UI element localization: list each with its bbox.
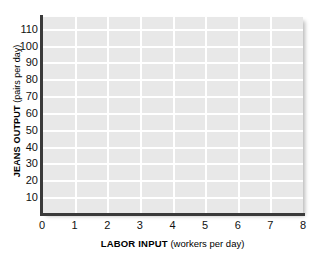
x-axis-tick-label: 8 bbox=[293, 219, 313, 231]
x-axis-tick-label: 7 bbox=[260, 219, 280, 231]
gridline-vertical bbox=[270, 17, 272, 214]
chart-figure: 102030405060708090100110 012345678 JEANS… bbox=[0, 0, 321, 261]
x-axis-title-units: (workers per day) bbox=[170, 238, 244, 249]
y-axis-title-units: (pairs per day) bbox=[12, 45, 22, 103]
plot-area bbox=[42, 17, 303, 214]
x-axis-title: LABOR INPUT (workers per day) bbox=[42, 238, 303, 249]
gridline-vertical bbox=[238, 17, 240, 214]
x-axis-tick-label: 6 bbox=[228, 219, 248, 231]
x-axis-line bbox=[40, 213, 305, 216]
x-axis-tick-label: 2 bbox=[97, 219, 117, 231]
x-axis-tick-label: 5 bbox=[195, 219, 215, 231]
gridline-vertical bbox=[140, 17, 142, 214]
gridline-vertical bbox=[173, 17, 175, 214]
x-axis-tick-label: 0 bbox=[32, 219, 52, 231]
y-axis-title-main: JEANS OUTPUT bbox=[12, 105, 22, 177]
x-axis-tick-label: 4 bbox=[163, 219, 183, 231]
y-axis-title: JEANS OUTPUT (pairs per day) bbox=[12, 11, 22, 211]
gridline-vertical bbox=[205, 17, 207, 214]
gridline-vertical bbox=[107, 17, 109, 214]
x-axis-title-main: LABOR INPUT bbox=[101, 238, 168, 249]
x-axis-tick-label: 1 bbox=[65, 219, 85, 231]
y-axis-line bbox=[40, 15, 43, 216]
gridline-vertical bbox=[75, 17, 77, 214]
x-axis-tick-label: 3 bbox=[130, 219, 150, 231]
